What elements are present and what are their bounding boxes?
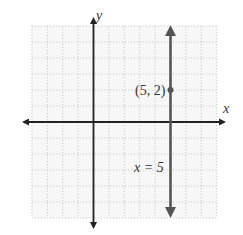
arrow-right-icon bbox=[219, 119, 226, 126]
point-5-2 bbox=[168, 87, 174, 93]
line-equation-label: x = 5 bbox=[133, 160, 164, 175]
arrow-down-icon bbox=[90, 222, 97, 229]
x-axis-label: x bbox=[222, 101, 230, 116]
coordinate-plane: x y (5, 2) x = 5 bbox=[0, 0, 243, 235]
point-label: (5, 2) bbox=[135, 83, 166, 99]
arrow-left-icon bbox=[22, 119, 29, 126]
y-axis-label: y bbox=[94, 8, 103, 23]
